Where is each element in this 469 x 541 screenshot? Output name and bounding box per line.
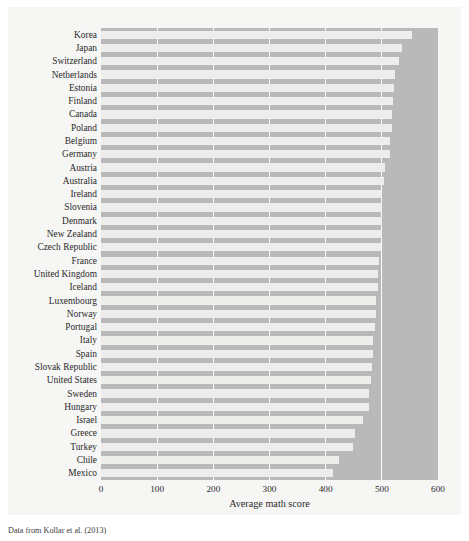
bar-japan [101,44,402,52]
bar-row [101,427,438,440]
y-tick-sweden: Sweden [0,389,97,399]
bar-row [101,174,438,187]
bar-sweden [101,389,369,397]
y-tick-greece: Greece [0,428,97,438]
y-tick-slovak-republic: Slovak Republic [0,362,97,372]
bar-row [101,267,438,280]
figure-caption: Data from Kollar et al. (2013) [8,526,106,535]
bar-row [101,55,438,68]
bar-row [101,281,438,294]
bar-norway [101,310,376,318]
bar-switzerland [101,57,399,65]
x-tick-600: 600 [431,483,445,495]
y-tick-israel: Israel [0,415,97,425]
bar-row [101,188,438,201]
bar-row [101,214,438,227]
bar-australia [101,177,384,185]
bar-row [101,254,438,267]
x-axis-title: Average math score [101,498,438,509]
y-tick-estonia: Estonia [0,83,97,93]
x-tick-300: 300 [263,483,277,495]
bar-row [101,440,438,453]
y-tick-new-zealand: New Zealand [0,229,97,239]
bar-hungary [101,403,369,411]
y-tick-netherlands: Netherlands [0,70,97,80]
bar-row [101,467,438,480]
y-tick-belgium: Belgium [0,136,97,146]
y-tick-finland: Finland [0,96,97,106]
bar-france [101,257,379,265]
y-tick-denmark: Denmark [0,216,97,226]
bar-spain [101,350,373,358]
y-tick-norway: Norway [0,309,97,319]
bar-chile [101,456,339,464]
y-tick-united-states: United States [0,375,97,385]
bar-row [101,374,438,387]
bar-row [101,81,438,94]
bar-row [101,347,438,360]
x-axis-tick-labels: 0100200300400500600 [101,483,438,497]
bar-row [101,307,438,320]
bar-row [101,241,438,254]
bar-austria [101,163,385,171]
bar-row [101,94,438,107]
bar-row [101,108,438,121]
bar-row [101,121,438,134]
bar-row [101,41,438,54]
bar-row [101,161,438,174]
bar-slovenia [101,203,382,211]
bar-row [101,453,438,466]
bar-row [101,334,438,347]
bar-netherlands [101,70,395,78]
bar-estonia [101,84,394,92]
bar-germany [101,150,390,158]
bar-slovak-republic [101,363,372,371]
bar-poland [101,124,392,132]
x-tick-400: 400 [319,483,333,495]
y-tick-poland: Poland [0,123,97,133]
y-tick-ireland: Ireland [0,189,97,199]
bar-korea [101,31,412,39]
bar-row [101,68,438,81]
plot-panel [101,28,438,480]
x-tick-100: 100 [150,483,164,495]
y-tick-spain: Spain [0,349,97,359]
bar-row [101,387,438,400]
bar-luxembourg [101,296,376,304]
y-tick-mexico: Mexico [0,468,97,478]
bar-united-kingdom [101,270,378,278]
bar-row [101,227,438,240]
bar-israel [101,416,363,424]
y-tick-korea: Korea [0,30,97,40]
bar-row [101,28,438,41]
y-tick-australia: Australia [0,176,97,186]
y-tick-turkey: Turkey [0,442,97,452]
y-axis-tick-labels: KoreaJapanSwitzerlandNetherlandsEstoniaF… [0,28,97,480]
bar-italy [101,336,373,344]
bar-row [101,201,438,214]
bar-ireland [101,190,382,198]
bar-greece [101,429,355,437]
bar-united-states [101,376,371,384]
y-tick-japan: Japan [0,43,97,53]
bar-canada [101,110,392,118]
y-tick-italy: Italy [0,335,97,345]
bar-new-zealand [101,230,382,238]
y-tick-hungary: Hungary [0,402,97,412]
y-tick-portugal: Portugal [0,322,97,332]
x-tick-500: 500 [375,483,389,495]
bar-row [101,320,438,333]
bar-portugal [101,323,375,331]
bar-row [101,134,438,147]
bar-turkey [101,443,353,451]
y-tick-canada: Canada [0,109,97,119]
y-tick-czech-republic: Czech Republic [0,242,97,252]
x-tick-200: 200 [206,483,220,495]
bar-belgium [101,137,390,145]
figure-container: KoreaJapanSwitzerlandNetherlandsEstoniaF… [0,0,469,541]
bar-row [101,148,438,161]
y-tick-germany: Germany [0,149,97,159]
bar-row [101,294,438,307]
bar-row [101,414,438,427]
y-tick-france: France [0,256,97,266]
